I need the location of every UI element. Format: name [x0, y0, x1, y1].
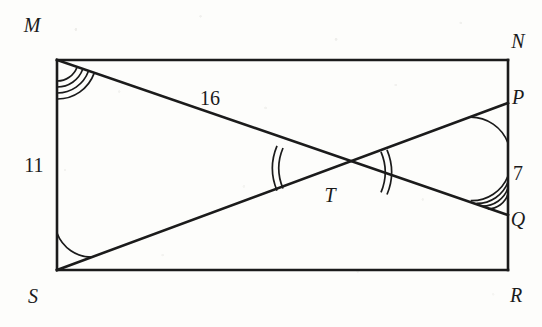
measure-label-mq: 16 — [200, 87, 220, 109]
measure-label-pq: 7 — [513, 162, 523, 184]
rectangle-mnrs — [57, 60, 508, 270]
vertex-label-n: N — [510, 30, 526, 52]
angle-mark-m-triple-arc — [57, 67, 94, 99]
measure-label-ms: 11 — [24, 154, 43, 176]
vertex-label-m: M — [23, 14, 42, 36]
vertex-label-p: P — [511, 86, 524, 108]
vertex-label-q: Q — [511, 208, 526, 230]
geometry-figure: M N P Q R S T 11 16 7 — [0, 0, 542, 327]
vertex-label-s: S — [28, 285, 38, 307]
geometry-canvas: M N P Q R S T 11 16 7 — [0, 0, 542, 327]
segment-mq — [57, 60, 508, 215]
diagonal-segments — [57, 60, 508, 270]
vertex-label-r: R — [509, 284, 522, 306]
angle-mark-s-single-arc — [57, 233, 93, 257]
angle-mark-p-single-arc — [470, 117, 508, 143]
angle-mark-t-left-double-arc — [273, 146, 283, 191]
vertex-label-t: T — [324, 184, 337, 206]
